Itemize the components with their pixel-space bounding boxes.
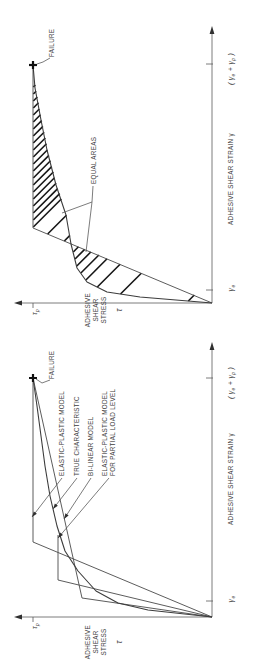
strain-axis-arrow	[210, 26, 215, 34]
failure-marker-dot	[32, 64, 35, 67]
hatch-stroke	[33, 189, 57, 213]
hatch-stroke	[188, 295, 194, 301]
stress-axis-label-line: SHEAR	[92, 298, 99, 321]
hatch-stroke	[73, 247, 78, 252]
legend-leader	[32, 478, 62, 517]
stress-axis-arrow	[14, 615, 22, 620]
partial-load-model-curve	[58, 535, 212, 617]
legend-leader	[64, 478, 91, 519]
hatch-stroke	[33, 109, 39, 115]
hatch-stroke	[48, 215, 67, 234]
stress-axis-label-line: STRESS	[100, 297, 107, 324]
hatch-stroke	[75, 249, 85, 259]
legend-label-3: FOR PARTIAL LOAD LEVEL	[109, 388, 116, 476]
hatch-stroke	[64, 235, 70, 241]
elastic-plastic-model-curve	[33, 65, 212, 303]
tau-p-label: τp	[31, 309, 40, 315]
true-characteristic-curve	[33, 65, 212, 303]
legend-leader	[58, 478, 109, 538]
failure-label: FAILURE	[48, 351, 55, 379]
hatch-stroke	[33, 155, 49, 171]
hatch-stroke	[86, 259, 107, 280]
failure-leader	[36, 379, 50, 383]
equal-areas-label: EQUAL AREAS	[90, 137, 98, 184]
leader-arrowhead	[64, 513, 69, 519]
hatch-stroke	[33, 138, 45, 150]
equal-areas-leader	[86, 202, 92, 252]
equal-areas-panel-svg: τpγe( γe + γp )ADHESIVE SHEAR STRAIN γAD…	[0, 0, 258, 334]
failure-leader	[37, 58, 50, 64]
stress-axis-label-line: STRESS	[100, 629, 107, 656]
stress-axis-arrow	[14, 301, 22, 306]
legend-label-0: ELASTIC-PLASTIC MODEL	[58, 391, 65, 476]
strain-axis-label: ADHESIVE SHEAR STRAIN γ	[227, 432, 235, 524]
hatch-stroke	[33, 144, 46, 157]
stress-axis-symbol: τ	[114, 640, 124, 644]
hatch-stroke	[33, 115, 40, 122]
hatch-stroke	[33, 194, 59, 220]
strain-axis-arrow	[210, 342, 215, 350]
tau-p-label: τp	[31, 623, 40, 629]
stress-axis-symbol: τ	[114, 308, 124, 312]
hatch-stroke	[97, 264, 120, 287]
models-panel-svg: τpγe( γe + γp )ADHESIVE SHEAR STRAIN γAD…	[0, 333, 258, 667]
hatch-stroke	[121, 273, 142, 294]
legend-label-2: BI-LINEAR MODEL	[87, 416, 94, 476]
hatch-stroke	[33, 199, 61, 227]
gamma-e-label: γe	[227, 596, 236, 603]
failure-marker-dot	[32, 377, 35, 380]
legend-label-3: ELASTIC-PLASTIC MODEL	[101, 391, 108, 476]
stress-axis-label-line: SHEAR	[92, 630, 99, 653]
strain-axis-label: ADHESIVE SHEAR STRAIN γ	[227, 132, 235, 224]
equal-areas-leader	[62, 186, 93, 213]
failure-label: FAILURE	[48, 29, 55, 57]
leader-arrowhead	[53, 503, 58, 509]
failure-strain-label: ( γe + γp )	[227, 53, 236, 85]
stress-axis-label-line: ADHESIVE	[84, 625, 91, 659]
hatch-stroke	[33, 150, 47, 164]
gamma-e-label: γe	[227, 285, 236, 292]
legend-label-1: TRUE CHARACTERISTIC	[73, 396, 80, 476]
models-comparison-chart: τpγe( γe + γp )ADHESIVE SHEAR STRAIN γAD…	[0, 333, 258, 667]
equal-areas-chart: τpγe( γe + γp )ADHESIVE SHEAR STRAIN γAD…	[0, 0, 258, 334]
stress-axis-label-line: ADHESIVE	[84, 293, 91, 327]
failure-strain-label: ( γe + γp )	[227, 367, 236, 399]
